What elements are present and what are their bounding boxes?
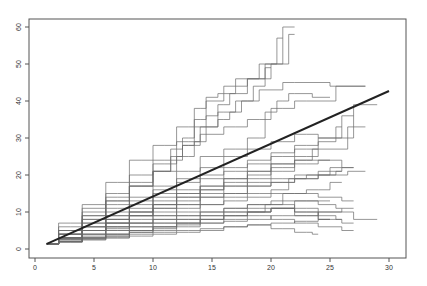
series-line	[47, 27, 295, 244]
x-axis: 051015202530	[33, 258, 393, 271]
chart: 051015202530 0102030405060	[0, 0, 427, 286]
y-axis: 0102030405060	[15, 23, 29, 251]
x-tick-label: 10	[149, 264, 157, 271]
plot-frame	[29, 19, 406, 258]
series-line	[47, 201, 330, 244]
series-lines	[47, 27, 377, 244]
series-line	[47, 171, 366, 244]
y-tick-label: 0	[15, 247, 22, 251]
series-line	[47, 127, 366, 244]
x-tick-label: 5	[92, 264, 96, 271]
series-line	[47, 68, 271, 244]
y-tick-label: 60	[15, 23, 22, 31]
y-tick-label: 10	[15, 208, 22, 216]
x-tick-label: 30	[385, 264, 393, 271]
x-tick-label: 25	[326, 264, 334, 271]
series-line	[47, 160, 330, 244]
y-tick-label: 50	[15, 60, 22, 68]
series-line	[47, 182, 342, 243]
y-tick-label: 20	[15, 171, 22, 179]
y-tick-label: 30	[15, 134, 22, 142]
series-line	[47, 94, 330, 244]
x-tick-label: 15	[208, 264, 216, 271]
x-tick-label: 20	[267, 264, 275, 271]
series-line	[47, 149, 318, 244]
series-line	[47, 34, 295, 243]
y-tick-label: 40	[15, 97, 22, 105]
x-tick-label: 0	[33, 264, 37, 271]
series-line	[47, 201, 342, 244]
